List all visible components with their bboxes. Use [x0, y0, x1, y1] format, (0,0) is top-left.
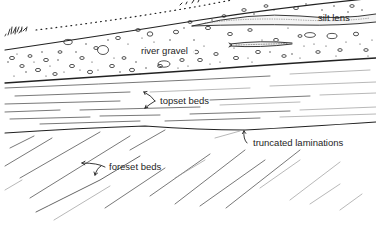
silt-lens-lower — [229, 41, 292, 47]
foreset-beds-label: foreset beds — [109, 161, 162, 172]
label-river-gravel: river gravel — [140, 44, 195, 57]
silt-lens-label: silt lens — [318, 12, 350, 23]
label-silt-lens: silt lens — [318, 12, 350, 23]
label-topset-beds: topset beds — [144, 92, 209, 109]
delta-cross-section-diagram: silt lens river gravel topset beds trunc… — [0, 0, 376, 227]
river-gravel-label: river gravel — [141, 45, 188, 56]
vegetation-tufts — [5, 27, 27, 36]
label-truncated-laminations: truncated laminations — [242, 131, 343, 148]
diagram-canvas: silt lens river gravel topset beds trunc… — [0, 0, 376, 227]
truncated-laminations-label: truncated laminations — [253, 137, 344, 148]
label-foreset-beds: foreset beds — [82, 161, 162, 175]
topset-beds-label: topset beds — [160, 95, 209, 106]
